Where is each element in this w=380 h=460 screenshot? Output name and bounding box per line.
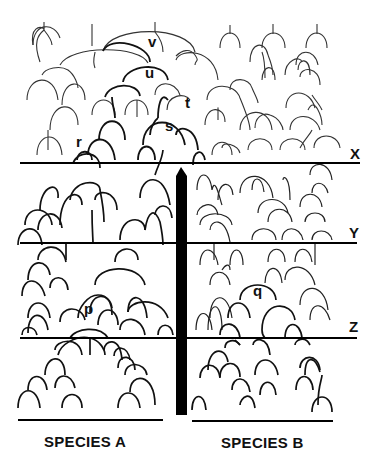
node-label-u: u — [145, 64, 154, 81]
species-a-lineages — [18, 150, 173, 408]
time-lines — [20, 163, 360, 338]
species-a-label: SPECIES A — [44, 433, 126, 450]
species-b-lineages — [196, 164, 332, 330]
time-line-label-z: Z — [349, 318, 358, 335]
time-line-label-y: Y — [349, 224, 359, 241]
species-b-label: SPECIES B — [221, 434, 304, 451]
phylogeny-diagram — [0, 0, 380, 460]
geographic-barrier — [176, 167, 187, 415]
time-line-label-x: X — [350, 145, 360, 162]
node-label-t: t — [185, 94, 190, 111]
node-label-v: v — [148, 33, 156, 50]
node-label-r: r — [76, 133, 82, 150]
node-label-s: s — [165, 117, 173, 134]
ancestral-lineages — [27, 22, 340, 155]
node-label-p: p — [84, 300, 93, 317]
node-label-q: q — [253, 282, 262, 299]
